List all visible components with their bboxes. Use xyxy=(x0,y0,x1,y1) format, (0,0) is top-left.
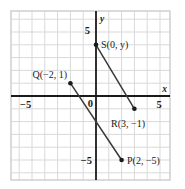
point-label-Q: Q(−2, 1) xyxy=(32,69,67,81)
coordinate-plane-figure: −5 5 5 −5 0 y x S(0, y) Q(−2, 1) R(3, −1… xyxy=(0,0,185,189)
point-marker-R xyxy=(132,107,137,112)
point-marker-Q xyxy=(68,81,73,86)
origin-label: 0 xyxy=(88,98,93,109)
x-tick-label-negative-5: −5 xyxy=(20,99,31,110)
x-axis-label: x xyxy=(161,84,167,94)
y-tick-label-5: 5 xyxy=(85,25,90,36)
point-marker-P xyxy=(119,158,124,163)
point-label-R: R(3, −1) xyxy=(111,118,145,130)
point-label-P: P(2, −5) xyxy=(127,155,160,167)
y-tick-label-negative-5: −5 xyxy=(81,155,92,166)
y-axis-label: y xyxy=(99,14,105,24)
point-marker-S xyxy=(94,43,99,48)
graph-canvas: −5 5 5 −5 0 y x S(0, y) Q(−2, 1) R(3, −1… xyxy=(0,0,185,189)
x-tick-label-5: 5 xyxy=(156,99,161,110)
point-label-S: S(0, y) xyxy=(101,39,128,51)
